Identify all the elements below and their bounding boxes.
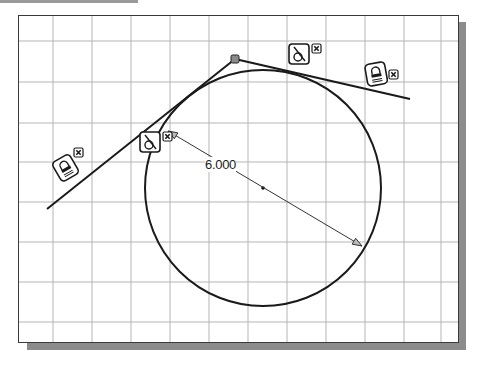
sketch-drawing[interactable]: [0, 0, 484, 365]
lock-constraint-icon[interactable]: [364, 61, 388, 86]
sketch-geometry[interactable]: [47, 55, 410, 306]
tangent-constraint[interactable]: [140, 132, 172, 152]
tangent-constraint-icon[interactable]: [289, 44, 309, 64]
dimension-line[interactable]: [168, 131, 362, 246]
delete-constraint-icon[interactable]: [74, 148, 83, 157]
vertex-point[interactable]: [231, 55, 239, 63]
fix-constraint[interactable]: [51, 148, 83, 182]
tangent-constraint-icon[interactable]: [140, 132, 160, 152]
diameter-dimension[interactable]: [168, 131, 362, 246]
fix-constraint[interactable]: [364, 61, 398, 86]
delete-constraint-icon[interactable]: [312, 44, 321, 53]
delete-constraint-icon[interactable]: [163, 132, 172, 141]
delete-constraint-icon[interactable]: [389, 70, 398, 79]
lock-constraint-icon[interactable]: [51, 153, 79, 182]
tangent-constraint[interactable]: [289, 44, 321, 64]
dimension-value-label[interactable]: 6.000: [205, 157, 236, 172]
